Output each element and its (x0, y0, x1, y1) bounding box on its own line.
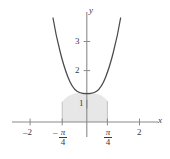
four-denominator-right: 4 (104, 138, 112, 147)
x-tick-label-minus-pi-over-4: – π 4 (59, 128, 67, 148)
x-tick-label-pi-over-4: π 4 (104, 128, 112, 148)
x-axis-label: x (158, 116, 162, 125)
figure-container: y x 3 2 1 –2 – π 4 π 4 2 (0, 0, 170, 159)
y-tick-label-1: 1 (79, 99, 84, 108)
x-tick-label-minus-2: –2 (23, 128, 32, 137)
y-tick-label-2: 2 (75, 66, 80, 75)
shaded-region (62, 92, 107, 122)
four-denominator-left: 4 (59, 138, 67, 147)
pi-numerator-right: π (104, 128, 112, 137)
y-axis-label: y (89, 6, 93, 15)
y-tick-label-3: 3 (75, 37, 80, 46)
pi-numerator-left: π (59, 128, 67, 137)
x-tick-label-2: 2 (137, 128, 142, 137)
minus-sign-left: – (53, 128, 58, 137)
